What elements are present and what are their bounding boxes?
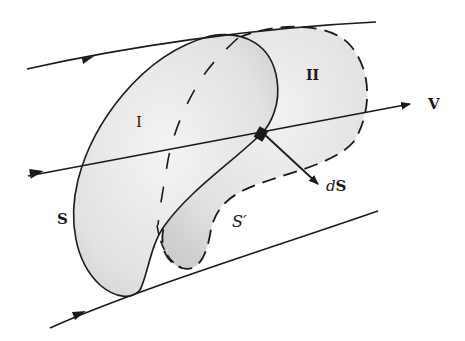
flow-tube-diagram: I II V S S′ dS <box>0 0 465 341</box>
label-surface-s: S <box>57 210 68 228</box>
label-region-2: II <box>306 67 319 83</box>
label-area-element: dS <box>326 177 346 195</box>
label-velocity: V <box>427 95 440 113</box>
label-region-1: I <box>136 113 142 131</box>
streamline-bottom-arrow <box>72 311 86 320</box>
label-surface-s-prime: S′ <box>232 212 247 231</box>
